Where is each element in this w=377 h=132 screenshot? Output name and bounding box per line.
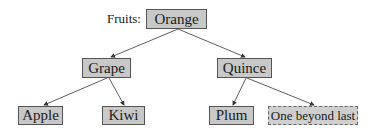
node-grape: Grape bbox=[82, 58, 131, 78]
fruits-label: Fruits: bbox=[107, 11, 141, 27]
node-quince: Quince bbox=[217, 58, 272, 78]
node-kiwi: Kiwi bbox=[102, 106, 145, 125]
edge-grape-apple bbox=[44, 78, 107, 105]
node-plum: Plum bbox=[209, 106, 254, 125]
edge-orange-grape bbox=[111, 29, 178, 57]
edge-quince-onebeyond bbox=[247, 78, 314, 105]
edge-orange-quince bbox=[178, 29, 245, 57]
node-orange: Orange bbox=[146, 9, 207, 29]
edge-quince-plum bbox=[233, 78, 246, 105]
edge-grape-kiwi bbox=[109, 78, 124, 105]
node-one-beyond-last: One beyond last bbox=[268, 106, 358, 125]
node-apple: Apple bbox=[18, 106, 63, 125]
